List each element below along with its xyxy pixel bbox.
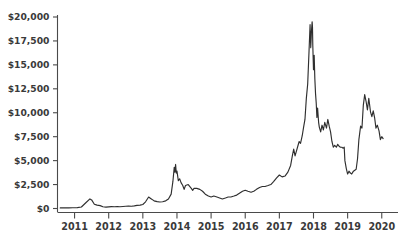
x-tick-label: 2013 (129, 221, 156, 232)
y-tick-label: $17,500 (8, 35, 50, 46)
x-tick-label: 2012 (95, 221, 122, 232)
x-tick-marks (75, 213, 382, 219)
y-tick-marks (53, 17, 58, 209)
y-tick-labels: $0$2,500$5,000$7,500$10,000$12,500$15,00… (8, 11, 50, 214)
y-tick-label: $12,500 (8, 83, 50, 94)
x-axis-group: 2011201220132014201520162017201820192020 (58, 213, 399, 232)
chart-page: $0$2,500$5,000$7,500$10,000$12,500$15,00… (0, 0, 405, 250)
y-tick-label: $2,500 (14, 179, 49, 190)
x-tick-label: 2018 (300, 221, 327, 232)
x-tick-label: 2011 (61, 221, 88, 232)
x-tick-label: 2019 (334, 221, 361, 232)
x-tick-label: 2017 (266, 221, 293, 232)
price-line-series (60, 22, 383, 208)
y-axis-group: $0$2,500$5,000$7,500$10,000$12,500$15,00… (8, 11, 58, 214)
y-tick-label: $5,000 (14, 155, 49, 166)
y-tick-label: $0 (37, 203, 50, 214)
x-tick-labels: 2011201220132014201520162017201820192020 (61, 221, 395, 232)
y-tick-label: $10,000 (8, 107, 50, 118)
x-tick-label: 2016 (232, 221, 259, 232)
y-tick-label: $20,000 (8, 11, 50, 22)
y-tick-label: $7,500 (14, 131, 49, 142)
y-tick-label: $15,000 (8, 59, 50, 70)
x-tick-label: 2020 (368, 221, 395, 232)
bitcoin-price-chart: $0$2,500$5,000$7,500$10,000$12,500$15,00… (0, 0, 405, 250)
x-tick-label: 2015 (198, 221, 225, 232)
x-tick-label: 2014 (164, 221, 191, 232)
